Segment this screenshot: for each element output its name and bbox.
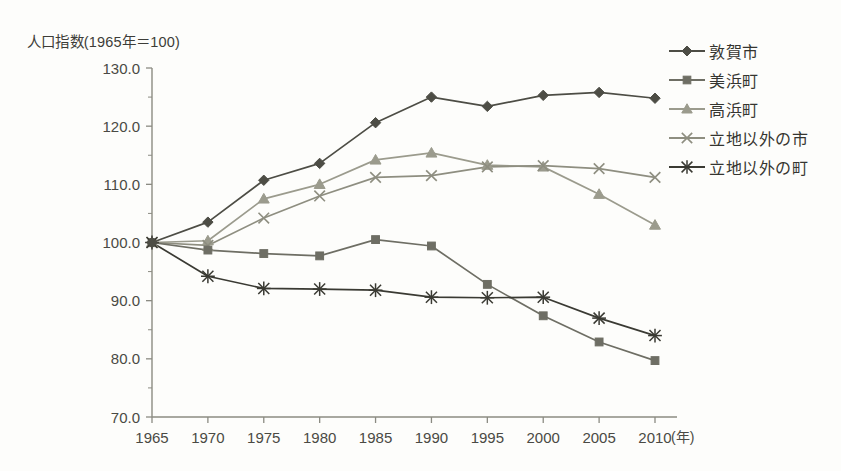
legend-marker-triangle-icon — [668, 99, 706, 119]
data-point — [650, 93, 660, 103]
y-tick-label: 70.0 — [111, 409, 140, 426]
legend-label-0: 敦賀市 — [706, 39, 759, 63]
data-point — [651, 357, 659, 365]
y-tick-label: 110.0 — [104, 176, 140, 193]
data-point — [648, 329, 662, 343]
data-point — [482, 101, 492, 111]
legend-label-1: 美浜町 — [706, 68, 759, 92]
data-point — [314, 179, 325, 189]
data-point — [539, 312, 547, 320]
data-point — [314, 191, 325, 202]
data-point — [682, 46, 692, 56]
data-point — [592, 311, 606, 325]
legend-marker-asterisk-icon — [668, 157, 706, 177]
data-point — [538, 90, 548, 100]
data-point — [428, 242, 436, 250]
x-tick-label: 1965 — [135, 429, 168, 446]
x-tick-label: 1990 — [415, 429, 448, 446]
data-point — [595, 338, 603, 346]
data-point — [650, 220, 661, 230]
legend-label-2: 高浜町 — [706, 97, 759, 121]
legend-label-4: 立地以外の町 — [706, 155, 808, 179]
x-tick-label: 1985 — [359, 429, 392, 446]
data-point — [316, 252, 324, 260]
legend-item-3[interactable]: 立地以外の市 — [668, 127, 808, 149]
data-point — [260, 250, 268, 258]
data-point — [258, 213, 269, 224]
data-point — [536, 290, 550, 304]
legend-item-2[interactable]: 高浜町 — [668, 98, 808, 120]
legend-marker-diamond-icon — [668, 41, 706, 61]
y-tick-label: 130.0 — [102, 60, 140, 77]
y-tick-label: 100.0 — [102, 234, 140, 251]
data-point — [372, 236, 380, 244]
x-tick-label: 1980 — [303, 429, 336, 446]
y-tick-label: 90.0 — [111, 292, 140, 309]
data-point — [257, 282, 271, 296]
x-tick-label: 2010 — [638, 429, 671, 446]
data-point — [201, 269, 215, 283]
series-line — [152, 243, 655, 336]
data-point — [594, 87, 604, 97]
legend-marker-x-icon — [668, 128, 706, 148]
data-point — [680, 160, 694, 174]
x-tick-label: 1995 — [471, 429, 504, 446]
y-tick-label: 120.0 — [102, 118, 140, 135]
x-tick-label: 2005 — [582, 429, 615, 446]
data-point — [313, 282, 327, 296]
data-point — [426, 92, 436, 102]
legend-item-0[interactable]: 敦賀市 — [668, 40, 808, 62]
data-point — [683, 76, 691, 84]
series-line — [152, 240, 655, 361]
legend-label-3: 立地以外の市 — [706, 126, 808, 150]
data-point — [425, 290, 439, 304]
y-tick-label: 80.0 — [111, 350, 140, 367]
data-point — [480, 291, 494, 305]
data-point — [204, 246, 212, 254]
x-axis-unit-label: (年) — [671, 429, 694, 445]
legend-item-4[interactable]: 立地以外の町 — [668, 156, 808, 178]
data-point — [594, 189, 605, 199]
x-tick-label: 1970 — [191, 429, 224, 446]
x-tick-label: 2000 — [527, 429, 560, 446]
legend-item-1[interactable]: 美浜町 — [668, 69, 808, 91]
x-tick-label: 1975 — [247, 429, 280, 446]
chart-container: 人口指数(1965年＝100) 130.0120.0110.0100.090.0… — [0, 0, 841, 471]
data-point — [426, 147, 437, 157]
series-line — [152, 166, 655, 246]
series-line — [152, 153, 655, 243]
chart-legend: 敦賀市 美浜町 高浜町 立地以外の市 立地以外の町 — [668, 40, 808, 178]
data-point — [369, 283, 383, 297]
legend-marker-square-icon — [668, 70, 706, 90]
data-point — [483, 280, 491, 288]
